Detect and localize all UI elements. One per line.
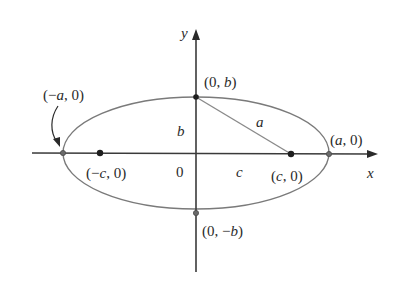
focal-distance-label-c: c	[236, 164, 243, 180]
ellipse-diagram: y x 0 (0, b) (−a, 0) (a, 0) (−c, 0) (c, …	[0, 0, 393, 285]
right-vertex-label: (a, 0)	[330, 132, 363, 149]
right-focus-point	[288, 151, 294, 157]
x-axis-arrow-icon	[367, 150, 378, 158]
left-focus-point	[97, 150, 103, 156]
x-axis	[32, 153, 370, 154]
top-covertex-label: (0, b)	[204, 74, 237, 91]
right-focus-label: (c, 0)	[271, 168, 303, 185]
y-axis-label: y	[179, 25, 188, 41]
bottom-covertex-label: (0, −b)	[202, 223, 243, 240]
hypotenuse-label-a: a	[256, 114, 264, 130]
curved-pointer-arrow	[52, 106, 58, 142]
origin-label: 0	[176, 164, 184, 180]
pointer-arrowhead-icon	[53, 137, 60, 147]
right-vertex-point	[326, 151, 331, 156]
x-axis-label: x	[366, 165, 374, 181]
left-vertex-point	[60, 150, 65, 155]
y-axis-arrow-icon	[192, 29, 200, 40]
left-focus-label: (−c, 0)	[86, 165, 126, 182]
top-covertex-point	[193, 94, 199, 100]
left-vertex-label: (−a, 0)	[43, 87, 84, 104]
bottom-covertex-point	[193, 210, 198, 215]
hypotenuse-segment	[196, 97, 291, 154]
semi-minor-label-b: b	[177, 123, 185, 139]
